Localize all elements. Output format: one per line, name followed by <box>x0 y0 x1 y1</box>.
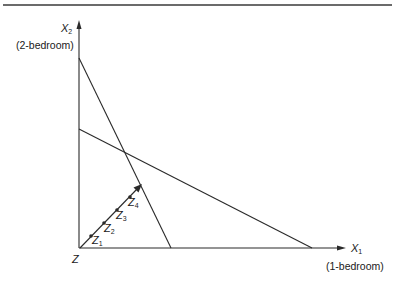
label-z4: Z4 <box>127 196 139 209</box>
label-z1: Z1 <box>91 234 103 247</box>
label-z3: Z3 <box>115 209 127 222</box>
label-z2: Z2 <box>103 222 115 235</box>
x-axis-label: X1 <box>350 242 362 255</box>
origin-label: Z <box>71 253 80 265</box>
x-axis-description: (1-bedroom) <box>326 260 384 272</box>
y-axis-label: X2 <box>60 22 72 35</box>
lp-diagram: X2 (2-bedroom) X1 (1-bedroom) Z Z1 Z2 Z3… <box>0 0 396 286</box>
objective-ray <box>80 184 142 248</box>
x-axis <box>79 246 346 251</box>
arrow-up-icon <box>77 20 82 29</box>
y-axis <box>77 20 82 248</box>
y-axis-description: (2-bedroom) <box>16 39 74 51</box>
arrow-right-icon <box>337 246 346 251</box>
